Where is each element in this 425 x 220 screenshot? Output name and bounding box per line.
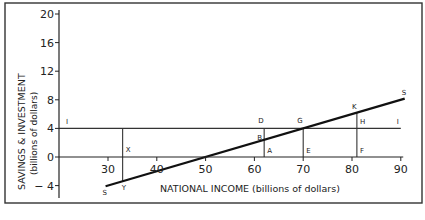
point-label-x: X <box>126 146 131 154</box>
point-label-f: F <box>360 147 364 155</box>
point-label-g: G <box>297 117 302 125</box>
point-label-a: A <box>267 147 272 155</box>
x-tick-label: 50 <box>199 163 213 176</box>
savings-investment-chart: IISS 201612840− 430405060708090 XYDBAGEK… <box>0 0 425 220</box>
y-axis-title: SAVINGS & INVESTMENT <box>16 73 27 190</box>
y-tick-label: 16 <box>40 37 54 50</box>
point-labels: XYDBAGEKHF <box>121 103 366 193</box>
y-tick-label: 8 <box>47 94 54 107</box>
chart-frame <box>5 3 422 203</box>
x-tick-label: 40 <box>150 163 164 176</box>
point-label-d: D <box>258 117 263 125</box>
x-tick-label: 30 <box>101 163 115 176</box>
point-label-k: K <box>352 103 357 111</box>
point-label-b: B <box>257 134 262 142</box>
investment-label-end: I <box>397 118 399 126</box>
y-axis-subtitle: (billions of dollars) <box>29 92 39 175</box>
x-tick-label: 90 <box>394 163 408 176</box>
x-axis-title: NATIONAL INCOME (billions of dollars) <box>160 183 340 194</box>
point-label-e: E <box>306 147 310 155</box>
y-tick-label: 4 <box>47 122 54 135</box>
x-tick-label: 80 <box>345 163 359 176</box>
y-tick-label: − 4 <box>34 180 54 193</box>
savings-label-end: S <box>402 89 407 97</box>
savings-label-start: S <box>103 189 108 197</box>
y-tick-label: 12 <box>40 65 54 78</box>
investment-label-start: I <box>66 118 68 126</box>
point-label-y: Y <box>121 184 127 192</box>
x-tick-label: 70 <box>296 163 310 176</box>
x-tick-label: 60 <box>247 163 261 176</box>
point-label-h: H <box>360 118 365 126</box>
y-tick-label: 0 <box>47 151 54 164</box>
y-tick-label: 20 <box>40 8 54 21</box>
